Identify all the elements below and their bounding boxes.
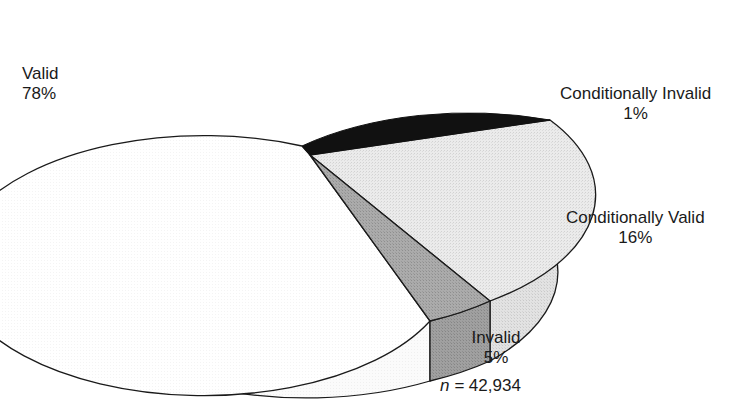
label-invalid-pct: 5% [455,348,537,368]
label-conditionally-invalid: Conditionally Invalid 1% [560,84,711,124]
label-valid-pct: 78% [22,84,59,104]
label-conditionally-invalid-name: Conditionally Invalid [560,84,711,103]
label-conditionally-valid-name: Conditionally Valid [566,208,705,227]
label-conditionally-valid-pct: 16% [566,228,705,248]
label-valid-name: Valid [22,64,59,83]
sample-size-annotation: n = 42,934 [440,376,521,396]
label-conditionally-valid: Conditionally Valid 16% [566,208,705,248]
label-valid: Valid 78% [22,64,59,104]
label-invalid-name: Invalid [471,328,520,347]
sample-size-value: 42,934 [469,376,521,395]
pie-chart: Valid 78% Conditionally Invalid 1% Condi… [0,0,748,418]
sample-size-symbol: n = [440,376,469,395]
label-conditionally-invalid-pct: 1% [560,104,711,124]
label-invalid: Invalid 5% [455,328,537,368]
